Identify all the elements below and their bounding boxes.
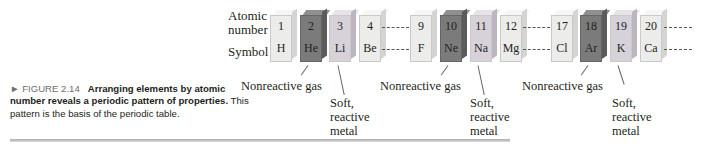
atomic-number-label: Atomic number [228,9,268,37]
element-symbol: Cl [551,41,573,56]
gap-dash [664,27,692,28]
label-line: metal [330,124,370,138]
label-line: reactive [330,110,370,124]
element-box-f: 9F [410,10,435,58]
element-symbol: Li [329,41,351,56]
atomic-number: 12 [500,19,522,34]
figure-number: FIGURE 2.14 [22,83,80,94]
label-line: Soft, [470,96,510,110]
element-symbol: He [300,41,322,56]
label-line: metal [612,124,652,138]
atomic-number: 18 [580,19,602,34]
element-symbol: Ar [580,41,602,56]
element-symbol: Be [359,41,381,56]
element-box-na: 11Na [470,10,495,58]
atomic-number: 20 [640,19,662,34]
label-line: reactive [470,110,510,124]
label-line: Soft, [612,96,652,110]
element-symbol: Ca [640,41,662,56]
label-line: Soft, [330,96,370,110]
element-box-ca: 20Ca [640,10,665,58]
leader-line [618,65,625,84]
label-line: reactive [612,110,652,124]
element-box-li: 3Li [329,10,354,58]
atomic-number: 17 [551,19,573,34]
label-soft-reactive-metal: Soft, reactive metal [470,96,510,138]
figure-caption: ► FIGURE 2.14 Arranging elements by atom… [10,83,260,120]
gap-dash [523,49,550,50]
atomic-number: 1 [270,19,292,34]
atomic-number: 2 [300,19,322,34]
element-box-cl: 17Cl [551,10,576,58]
leader-line [301,65,309,75]
bottom-rule [10,139,510,142]
atomic-number: 19 [610,19,632,34]
gap-dash [382,49,409,50]
element-box-ne: 10Ne [440,10,465,58]
symbol-label: Symbol [228,45,268,59]
atomic-number: 3 [329,19,351,34]
element-box-mg: 12Mg [500,10,525,58]
atomic-number: 4 [359,19,381,34]
label-soft-reactive-metal: Soft, reactive metal [612,96,652,138]
element-box-ar: 18Ar [580,10,605,58]
element-symbol: F [410,41,432,56]
atomic-number: 10 [440,19,462,34]
gap-dash [523,27,550,28]
atomic-label-line1: Atomic [228,9,268,23]
atomic-number: 11 [470,19,492,34]
label-nonreactive-gas: Nonreactive gas [241,79,322,93]
element-box-be: 4Be [359,10,384,58]
atomic-label-line2: number [228,23,268,37]
element-symbol: H [270,41,292,56]
element-symbol: Na [470,41,492,56]
element-symbol: Mg [500,41,522,56]
label-nonreactive-gas: Nonreactive gas [522,79,603,93]
leader-line [338,65,345,95]
element-box-k: 19K [610,10,635,58]
element-box-he: 2He [300,10,325,58]
label-soft-reactive-metal: Soft, reactive metal [330,96,370,138]
element-box-h: 1H [270,10,295,58]
leader-line [478,65,485,95]
gap-dash [664,49,692,50]
element-symbol: Ne [440,41,462,56]
caption-arrow-icon: ► [10,83,22,94]
leader-line [581,65,589,75]
leader-line [441,65,449,75]
element-symbol: K [610,41,632,56]
label-nonreactive-gas: Nonreactive gas [380,79,461,93]
gap-dash [382,27,409,28]
label-line: metal [470,124,510,138]
atomic-number: 9 [410,19,432,34]
